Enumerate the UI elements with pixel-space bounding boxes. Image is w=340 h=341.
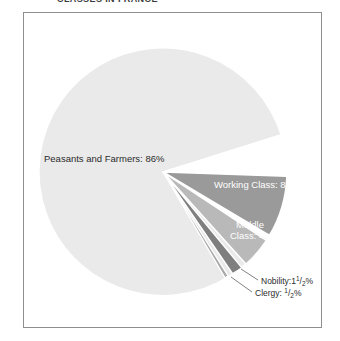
clergy-prefix: Clergy: — [255, 288, 284, 298]
middle-class-label-line1: Middle — [236, 219, 264, 230]
working-class-label: Working Class: 8% — [214, 179, 295, 190]
clergy-leader-line — [231, 277, 252, 292]
nobility-suffix: % — [306, 276, 314, 286]
middle-class-label-line2: Class: 4% — [230, 230, 273, 241]
nobility-prefix: Nobility:1 — [261, 276, 296, 286]
nobility-leader-line — [241, 269, 258, 280]
clergy-suffix: % — [294, 288, 302, 298]
nobility-callout: Nobility:11/2% — [261, 275, 314, 287]
peasants-label: Peasants and Farmers: 86% — [44, 153, 165, 164]
chart-page: CLASSES IN FRANCE Peasants and Farmers: … — [0, 0, 340, 341]
clergy-callout: Clergy: 1/2% — [255, 287, 302, 299]
pie-chart: Peasants and Farmers: 86% Working Class:… — [0, 0, 340, 341]
